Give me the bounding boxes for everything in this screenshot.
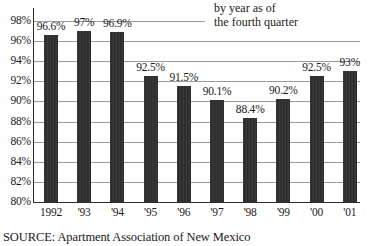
bar-01 — [343, 71, 357, 202]
bar-value-label: 90.2% — [263, 85, 303, 97]
chart-caption: by year as of the fourth quarter — [214, 2, 298, 29]
bar-chart: 98%96%94%92%90%88%86%84%82%80% 96.6%1992… — [0, 0, 369, 246]
bar-1992 — [44, 35, 58, 202]
y-tick-82: 82% — [1, 176, 31, 188]
bar-98 — [243, 118, 257, 202]
y-tick-94: 94% — [1, 55, 31, 67]
bar-93 — [77, 31, 91, 202]
source-credit: SOURCE: Apartment Association of New Mex… — [3, 230, 250, 244]
bar-value-label: 88.4% — [230, 104, 270, 116]
x-tick-label: '01 — [330, 206, 369, 218]
y-tick-84: 84% — [1, 156, 31, 168]
y-axis-line — [33, 8, 34, 203]
y-tick-86: 86% — [1, 136, 31, 148]
y-tick-98: 98% — [1, 15, 31, 27]
bar-96 — [177, 86, 191, 202]
bar-97 — [210, 100, 224, 202]
y-axis-tick-labels: 98%96%94%92%90%88%86%84%82%80% — [0, 0, 31, 246]
bar-value-label: 91.5% — [164, 72, 204, 84]
bar-value-label: 93% — [330, 57, 369, 69]
bar-94 — [110, 32, 124, 202]
y-tick-96: 96% — [1, 35, 31, 47]
y-tick-88: 88% — [1, 116, 31, 128]
y-tick-90: 90% — [1, 95, 31, 107]
bar-00 — [310, 76, 324, 202]
bar-value-label: 96.9% — [97, 18, 137, 30]
x-axis-line — [33, 202, 360, 203]
bar-95 — [144, 76, 158, 202]
y-tick-80: 80% — [1, 196, 31, 208]
y-tick-92: 92% — [1, 75, 31, 87]
bar-value-label: 90.1% — [197, 86, 237, 98]
bar-99 — [276, 99, 290, 202]
